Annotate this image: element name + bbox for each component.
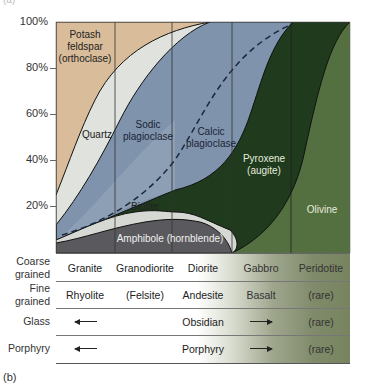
label-biotite: Biotite: [131, 201, 159, 212]
cell-granite: Granite: [68, 262, 102, 274]
rowhead-coarse: Coarse grained: [15, 255, 50, 281]
label-quartz: Quartz: [82, 129, 112, 140]
label-orthoclase-3: (orthoclase): [59, 53, 112, 64]
label-amphibole: Amphibole (hornblende): [117, 233, 224, 244]
label-olivine: Olivine: [307, 204, 338, 215]
label-sodic-2: plagioclase: [123, 131, 173, 142]
cell-glass-rare: (rare): [308, 316, 334, 328]
row-porphyry: Porphyry (rare): [56, 335, 350, 362]
cell-andesite: Andesite: [183, 289, 224, 301]
row-coarse-grained: Granite Granodiorite Diorite Gabbro Peri…: [56, 254, 350, 282]
label-calcic-1: Calcic: [197, 126, 224, 137]
label-pyroxene-1: Pyroxene: [243, 153, 286, 164]
rowhead-glass: Glass: [23, 315, 50, 328]
arrow-right-icon: [250, 321, 272, 322]
rowhead-fine: Fine grained: [15, 282, 50, 308]
mineral-composition-chart: Potash feldspar (orthoclase) Quartz Sodi…: [0, 0, 367, 260]
cell-fine-rare: (rare): [308, 289, 334, 301]
cell-granodiorite: Granodiorite: [116, 262, 174, 274]
rock-classification-table: Granite Granodiorite Diorite Gabbro Peri…: [56, 253, 350, 364]
cell-diorite: Diorite: [188, 262, 218, 274]
cell-porphyry: Porphyry: [182, 343, 224, 355]
label-sodic-1: Sodic: [135, 119, 160, 130]
row-glass: Obsidian (rare): [56, 308, 350, 336]
panel-b-label: (b): [3, 371, 16, 383]
label-pyroxene-2: (augite): [247, 165, 281, 176]
cell-obsidian: Obsidian: [182, 316, 223, 328]
label-orthoclase-2: feldspar: [67, 41, 103, 52]
cell-porphyry-rare: (rare): [308, 343, 334, 355]
label-orthoclase-1: Potash: [69, 29, 100, 40]
cell-gabbro: Gabbro: [243, 262, 278, 274]
label-calcic-2: plagioclase: [186, 138, 236, 149]
row-fine-grained: Rhyolite (Felsite) Andesite Basalt (rare…: [56, 281, 350, 309]
cell-felsite: (Felsite): [126, 289, 164, 301]
cell-rhyolite: Rhyolite: [66, 289, 104, 301]
arrow-right-icon: [250, 348, 272, 349]
cell-basalt: Basalt: [246, 289, 275, 301]
arrow-left-icon: [75, 321, 97, 322]
arrow-left-icon: [75, 348, 97, 349]
cell-peridotite: Peridotite: [299, 262, 343, 274]
rowhead-porphyry: Porphyry: [8, 342, 50, 355]
